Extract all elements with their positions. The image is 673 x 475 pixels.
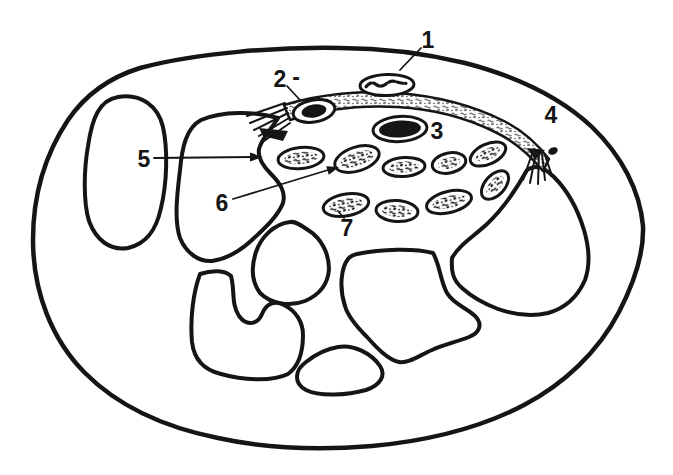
anatomical-cross-section-diagram: 1 2 - 3 4 5 6 7 bbox=[0, 0, 673, 475]
label-4: 4 bbox=[545, 102, 558, 128]
label-5: 5 bbox=[138, 146, 151, 172]
label-7: 7 bbox=[341, 215, 354, 241]
label-1: 1 bbox=[422, 27, 435, 53]
label-3: 3 bbox=[431, 118, 444, 144]
label-2: 2 bbox=[274, 66, 287, 92]
label-5-arrow-line bbox=[154, 157, 252, 158]
stippled-oval-top bbox=[360, 74, 415, 97]
label-2-dash: - bbox=[292, 64, 300, 90]
label-6: 6 bbox=[216, 190, 229, 216]
diagram-page: 1 2 - 3 4 5 6 7 bbox=[0, 0, 673, 475]
organ-loop-a bbox=[85, 96, 166, 248]
